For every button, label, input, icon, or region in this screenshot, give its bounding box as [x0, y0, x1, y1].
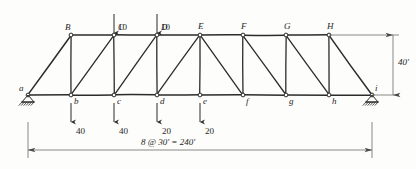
joint-g	[284, 93, 288, 97]
truss-members-group	[28, 35, 372, 96]
member-web-diagonal-Gh	[286, 35, 329, 95]
member-web-diagonal-dE	[157, 35, 200, 95]
joint-label-a: a	[19, 84, 24, 93]
load-value-C: 10	[118, 23, 127, 32]
member-end-diagonal-aB	[28, 35, 71, 95]
load-value-c: 40	[119, 127, 128, 136]
joint-label-c: c	[117, 97, 121, 106]
joint-C	[112, 33, 116, 37]
joint-F	[241, 33, 245, 37]
member-end-diagonal-Hi	[329, 35, 372, 95]
truss-vector-drawing	[0, 0, 416, 169]
joint-B	[69, 33, 73, 37]
truss-diagram-figure: abcdefghiBCDEFGH101040402020 8 @ 30' = 2…	[0, 0, 416, 169]
load-value-D: 10	[161, 23, 170, 32]
joint-label-g: g	[289, 97, 294, 106]
member-web-diagonal-Fg	[243, 35, 286, 95]
joint-b	[69, 93, 73, 97]
joint-label-d: d	[160, 97, 165, 106]
joint-h	[327, 93, 331, 97]
joint-label-i: i	[375, 84, 378, 93]
span-dimension-label: 8 @ 30' = 240'	[138, 138, 198, 147]
load-value-d: 20	[162, 127, 171, 136]
member-web-diagonal-cD	[114, 35, 157, 95]
load-value-e: 20	[205, 127, 214, 136]
joint-label-f: f	[246, 97, 249, 106]
joint-label-F: F	[241, 22, 247, 31]
joint-label-G: G	[284, 22, 291, 31]
joint-G	[284, 33, 288, 37]
joint-f	[241, 93, 245, 97]
joint-label-b: b	[74, 97, 79, 106]
joint-label-H: H	[327, 22, 334, 31]
joint-D	[155, 33, 159, 37]
member-web-diagonal-bC	[71, 35, 114, 95]
drawing-canvas: abcdefghiBCDEFGH101040402020 8 @ 30' = 2…	[0, 0, 416, 169]
joint-e	[198, 93, 202, 97]
joint-label-E: E	[198, 22, 204, 31]
joint-d	[155, 93, 159, 97]
member-bottom-chord-fg	[243, 95, 286, 96]
joint-E	[198, 33, 202, 37]
member-vertical-cC	[114, 35, 115, 95]
joint-label-e: e	[203, 97, 207, 106]
joint-label-B: B	[65, 23, 71, 32]
joint-label-h: h	[332, 97, 337, 106]
load-value-b: 40	[76, 127, 85, 136]
joint-c	[112, 93, 116, 97]
member-web-diagonal-Ef	[200, 35, 243, 95]
height-dimension-label: 40'	[398, 58, 409, 67]
